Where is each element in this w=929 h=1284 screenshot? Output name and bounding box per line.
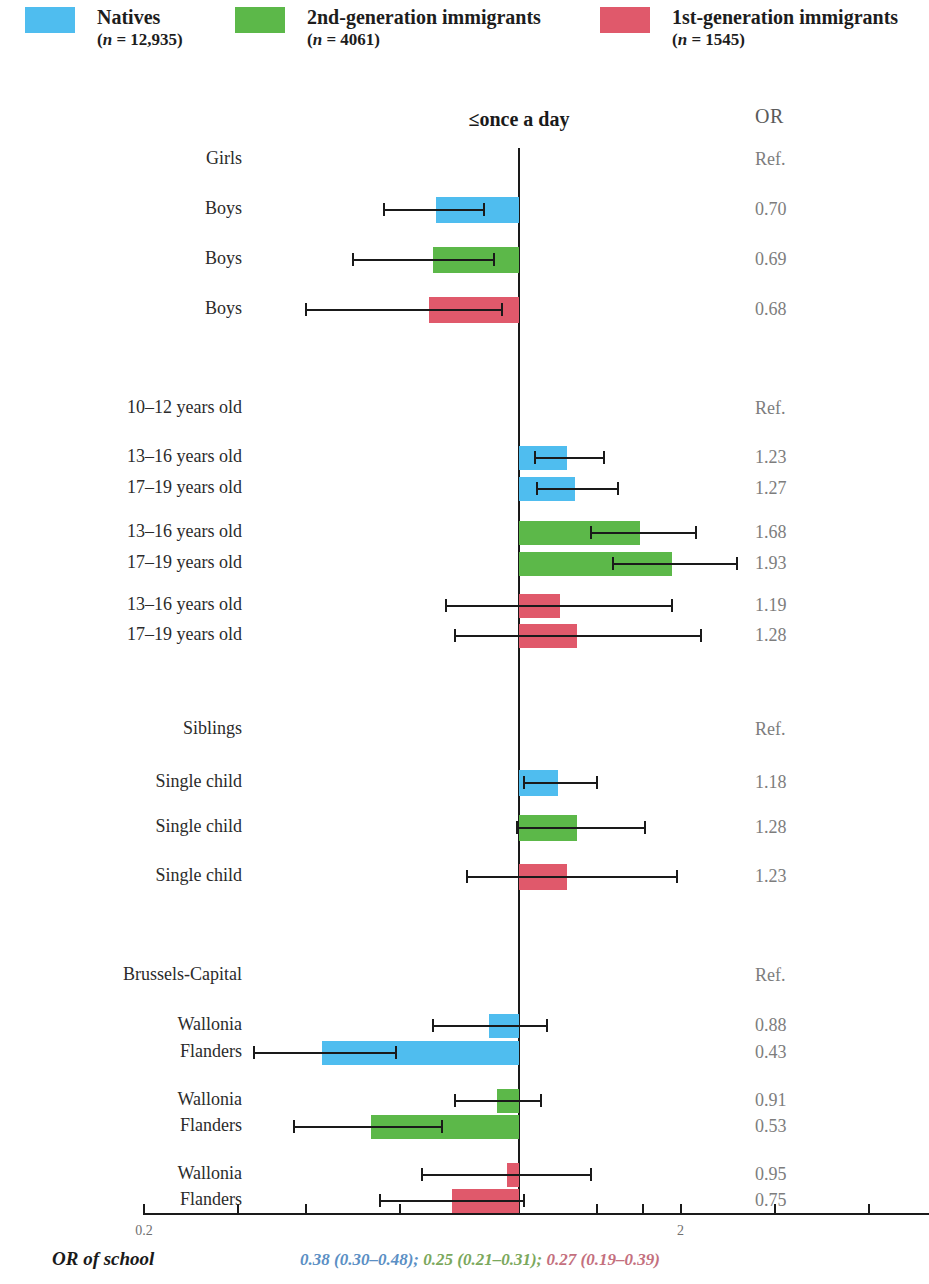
footer-values: 0.38 (0.30–0.48); 0.25 (0.21–0.31); 0.27… [300, 1250, 660, 1270]
forest-plot: ≤once a day OR 0.22GirlsRef.Boys0.70Boys… [0, 0, 929, 1284]
or-value: Ref. [755, 965, 786, 986]
or-value: 0.88 [755, 1015, 787, 1036]
confidence-interval-cap [736, 557, 738, 570]
confidence-interval-line [537, 488, 618, 490]
or-value: 0.75 [755, 1190, 787, 1211]
footer-label: OR of school [52, 1248, 154, 1270]
footer: OR of school 0.38 (0.30–0.48); 0.25 (0.2… [0, 1242, 929, 1284]
or-value: 0.70 [755, 199, 787, 220]
confidence-interval-cap [445, 599, 447, 612]
confidence-interval-cap [383, 203, 385, 216]
footer-separator: ; [537, 1250, 547, 1269]
confidence-interval-cap [523, 1194, 525, 1207]
confidence-interval-line [294, 1126, 443, 1128]
row-label: 17–19 years old [0, 477, 242, 498]
x-axis-tick-label: 0.2 [104, 1223, 184, 1239]
confidence-interval-cap [536, 482, 538, 495]
confidence-interval-cap [293, 1120, 295, 1133]
row-label: Flanders [0, 1115, 242, 1136]
or-value: 1.23 [755, 447, 787, 468]
confidence-interval-cap [483, 203, 485, 216]
or-value: 1.68 [755, 522, 787, 543]
or-value: 1.28 [755, 817, 787, 838]
or-value: 0.95 [755, 1164, 787, 1185]
confidence-interval-line [422, 1174, 590, 1176]
chart-column-title: ≤once a day [369, 108, 669, 131]
confidence-interval-line [446, 605, 673, 607]
confidence-interval-cap [454, 629, 456, 642]
confidence-interval-cap [596, 776, 598, 789]
footer-separator: ; [413, 1250, 423, 1269]
confidence-interval-cap [590, 526, 592, 539]
confidence-interval-cap [466, 870, 468, 883]
row-label: 13–16 years old [0, 594, 242, 615]
x-axis-tick [868, 1204, 870, 1215]
x-axis-tick [399, 1204, 401, 1215]
or-value: 1.18 [755, 772, 787, 793]
confidence-interval-cap [695, 526, 697, 539]
or-value: 1.23 [755, 866, 787, 887]
confidence-interval-cap [421, 1168, 423, 1181]
or-value: Ref. [755, 719, 786, 740]
or-value: 1.28 [755, 625, 787, 646]
confidence-interval-line [455, 1100, 541, 1102]
confidence-interval-cap [352, 253, 354, 266]
or-value: Ref. [755, 398, 786, 419]
confidence-interval-line [613, 563, 737, 565]
confidence-interval-cap [305, 303, 307, 316]
x-axis-tick [596, 1204, 598, 1215]
confidence-interval-cap [501, 303, 503, 316]
row-label: Brussels-Capital [0, 964, 242, 985]
row-label: Boys [0, 248, 242, 269]
confidence-interval-cap [671, 599, 673, 612]
footer-or-value: 0.38 (0.30–0.48) [300, 1250, 413, 1269]
row-label: 10–12 years old [0, 397, 242, 418]
x-axis-tick [642, 1204, 644, 1215]
confidence-interval-cap [395, 1046, 397, 1059]
row-label: 17–19 years old [0, 624, 242, 645]
confidence-interval-cap [540, 1094, 542, 1107]
confidence-interval-cap [454, 1094, 456, 1107]
or-value: 1.27 [755, 478, 787, 499]
confidence-interval-line [467, 876, 677, 878]
confidence-interval-cap [493, 253, 495, 266]
row-label: Single child [0, 816, 242, 837]
confidence-interval-cap [617, 482, 619, 495]
footer-or-value: 0.25 (0.21–0.31) [423, 1250, 536, 1269]
row-label: Flanders [0, 1041, 242, 1062]
x-axis [144, 1213, 929, 1215]
x-axis-tick [680, 1204, 682, 1215]
confidence-interval-line [524, 782, 598, 784]
x-axis-tick [305, 1204, 307, 1215]
row-label: Girls [0, 148, 242, 169]
confidence-interval-line [517, 827, 646, 829]
row-label: Boys [0, 198, 242, 219]
confidence-interval-line [591, 532, 697, 534]
confidence-interval-cap [644, 821, 646, 834]
confidence-interval-line [306, 309, 503, 311]
row-label: Siblings [0, 718, 242, 739]
or-value: Ref. [755, 149, 786, 170]
confidence-interval-cap [441, 1120, 443, 1133]
confidence-interval-cap [612, 557, 614, 570]
row-label: Wallonia [0, 1014, 242, 1035]
confidence-interval-cap [603, 451, 605, 464]
or-value: 0.43 [755, 1042, 787, 1063]
or-column-header: OR [755, 105, 784, 128]
row-label: Single child [0, 771, 242, 792]
confidence-interval-cap [379, 1194, 381, 1207]
or-value: 0.91 [755, 1090, 787, 1111]
confidence-interval-line [455, 635, 701, 637]
or-value: 0.69 [755, 249, 787, 270]
confidence-interval-cap [523, 776, 525, 789]
or-value: 1.93 [755, 553, 787, 574]
confidence-interval-line [254, 1052, 397, 1054]
footer-or-value: 0.27 (0.19–0.39) [547, 1250, 660, 1269]
confidence-interval-cap [516, 821, 518, 834]
row-label: 13–16 years old [0, 521, 242, 542]
row-label: Wallonia [0, 1089, 242, 1110]
row-label: Flanders [0, 1189, 242, 1210]
confidence-interval-line [535, 457, 604, 459]
confidence-interval-cap [534, 451, 536, 464]
row-label: 13–16 years old [0, 446, 242, 467]
